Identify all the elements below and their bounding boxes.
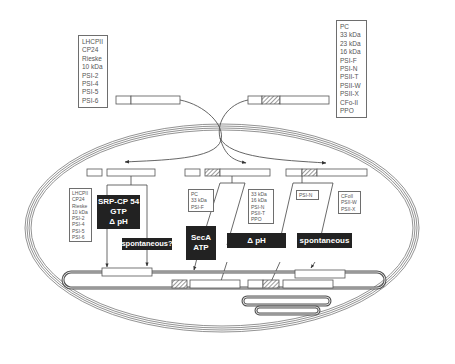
label-line: GTP	[110, 207, 126, 217]
protein-item: PSI-N	[299, 192, 316, 198]
precursor-right	[248, 96, 329, 104]
srp-protein-list: LHCPII CP24 Rieske 10 kDa PSI-2 PSI-4 PS…	[69, 188, 92, 242]
protein-item: Rieske	[72, 203, 89, 209]
intermediate-spont	[286, 169, 367, 176]
protein-item: PSI-6	[72, 234, 89, 240]
diagram-canvas	[0, 0, 455, 364]
spontaneous-protein-list-a: PSI-N	[296, 190, 319, 200]
spontaneous-pathway-label: spontaneous	[297, 233, 352, 248]
label-line: spontaneous	[300, 236, 350, 246]
protein-item: Rieske	[82, 55, 104, 63]
spontaneous-protein-list-b: CFoII PSII-W PSII-X	[338, 191, 361, 214]
srp-pathway-label: SRP-CP 54 GTP Δ pH	[97, 195, 140, 229]
label-line: spontaneous?	[121, 239, 172, 249]
protein-item: PSII-X	[340, 90, 363, 98]
protein-item: PPO	[340, 107, 363, 115]
protein-item: PPO	[251, 216, 271, 222]
protein-item: PSI-2	[82, 72, 104, 80]
protein-item: PSI-N	[340, 65, 363, 73]
protein-item: 16 kDa	[340, 48, 363, 56]
thylakoid-import-diagram: LHCPII CP24 Rieske 10 kDa PSI-2 PSI-4 PS…	[0, 0, 455, 364]
label-line: SecA	[191, 233, 211, 243]
protein-item: PSI-F	[340, 57, 363, 65]
protein-item: PSII-W	[341, 199, 358, 205]
label-line: Δ pH	[109, 217, 128, 227]
deltaph-pathway-label: Δ pH	[227, 233, 286, 248]
sec-protein-list: PC 33 kDa PSI-F	[188, 189, 214, 212]
protein-item: LHCPII	[82, 38, 104, 46]
protein-item: PSII-W	[340, 82, 363, 90]
sec-pathway-label: SecA ATP	[186, 226, 216, 260]
protein-item: PSII-T	[340, 73, 363, 81]
label-line: ATP	[193, 243, 208, 253]
top-left-protein-list: LHCPII CP24 Rieske 10 kDa PSI-2 PSI-4 PS…	[78, 35, 108, 108]
protein-item: PSII-X	[341, 206, 358, 212]
protein-item: 10 kDa	[82, 63, 104, 71]
protein-item: PC	[340, 23, 363, 31]
intermediate-srp	[87, 169, 155, 176]
intermediate-sec	[185, 169, 270, 176]
protein-item: PSI-6	[82, 97, 104, 105]
label-line: Δ pH	[247, 236, 266, 246]
label-line: SRP-CP 54	[98, 197, 139, 207]
top-right-protein-list: PC 33 kDa 23 kDa 16 kDa PSI-F PSI-N PSII…	[336, 20, 367, 118]
precursor-left	[116, 96, 180, 104]
protein-item: PSI-5	[82, 88, 104, 96]
protein-item: PSI-4	[82, 80, 104, 88]
deltaph-protein-list: 33 kDa 16 kDa PSI-N PSII-T PPO	[248, 189, 274, 224]
protein-item: 33 kDa	[340, 31, 363, 39]
spontaneous-question-label: spontaneous?	[122, 238, 172, 250]
protein-item: PSI-F	[191, 204, 211, 210]
protein-item: CFo-II	[340, 99, 363, 107]
protein-item: 23 kDa	[340, 40, 363, 48]
protein-item: CP24	[82, 46, 104, 54]
